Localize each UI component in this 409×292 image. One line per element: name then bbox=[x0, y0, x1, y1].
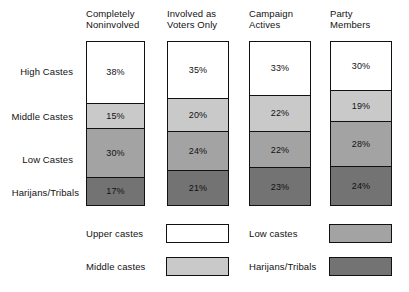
segment-value-label: 30% bbox=[106, 148, 125, 158]
legend-swatch-middle-castes bbox=[166, 257, 229, 276]
segment-value-label: 38% bbox=[106, 67, 125, 77]
bar-segment-low-castes: 28% bbox=[331, 121, 391, 166]
bar-segment-upper-castes: 30% bbox=[331, 42, 391, 90]
segment-value-label: 17% bbox=[106, 186, 125, 196]
segment-value-label: 19% bbox=[352, 101, 371, 111]
segment-value-label: 24% bbox=[189, 146, 208, 156]
legend-label-upper-castes: Upper castes bbox=[86, 229, 143, 240]
legend-swatch-harijans-tribals bbox=[329, 257, 392, 276]
segment-value-label: 23% bbox=[271, 182, 290, 192]
column-header-involved-as-voters-only: Involved as Voters Only bbox=[167, 9, 217, 30]
bar-segment-upper-castes: 33% bbox=[250, 42, 310, 95]
row-label-low-castes: Low Castes bbox=[22, 155, 73, 166]
bar-segment-harijans-tribals: 24% bbox=[331, 166, 391, 205]
segment-value-label: 22% bbox=[271, 145, 290, 155]
bar-segment-low-castes: 24% bbox=[168, 131, 228, 170]
segment-value-label: 30% bbox=[352, 61, 371, 71]
legend-label-low-castes: Low castes bbox=[249, 229, 298, 240]
segment-value-label: 35% bbox=[189, 65, 208, 75]
bar-segment-middle-castes: 19% bbox=[331, 90, 391, 121]
bar-segment-middle-castes: 15% bbox=[87, 103, 144, 128]
bar-campaign-actives: 33% 22% 22% 23% bbox=[249, 41, 311, 206]
bar-segment-harijans-tribals: 17% bbox=[87, 177, 144, 205]
bar-segment-low-castes: 30% bbox=[87, 128, 144, 177]
row-label-column: High Castes Middle Castes Low Castes Har… bbox=[0, 0, 82, 292]
bar-segment-middle-castes: 22% bbox=[250, 95, 310, 131]
segment-value-label: 20% bbox=[189, 110, 208, 120]
legend-swatch-low-castes bbox=[329, 224, 392, 243]
bar-segment-harijans-tribals: 21% bbox=[168, 170, 228, 205]
row-label-middle-castes: Middle Castes bbox=[12, 112, 74, 123]
bar-segment-upper-castes: 38% bbox=[87, 42, 144, 103]
bar-completely-noninvolved: 38% 15% 30% 17% bbox=[86, 41, 145, 206]
segment-value-label: 24% bbox=[352, 181, 371, 191]
bar-segment-middle-castes: 20% bbox=[168, 98, 228, 131]
segment-value-label: 21% bbox=[189, 183, 208, 193]
bar-party-members: 30% 19% 28% 24% bbox=[330, 41, 392, 206]
column-header-campaign-actives: Campaign Actives bbox=[249, 9, 293, 30]
stacked-bar-chart: Completely Noninvolved Involved as Voter… bbox=[0, 0, 409, 292]
legend-label-middle-castes: Middle castes bbox=[86, 262, 145, 273]
segment-value-label: 33% bbox=[271, 63, 290, 73]
bar-segment-upper-castes: 35% bbox=[168, 42, 228, 98]
segment-value-label: 22% bbox=[271, 108, 290, 118]
row-label-harijans-tribals: Harijans/Tribals bbox=[12, 188, 79, 199]
column-header-party-members: Party Members bbox=[330, 9, 370, 30]
bar-involved-as-voters-only: 35% 20% 24% 21% bbox=[167, 41, 229, 206]
row-label-high-castes: High Castes bbox=[20, 67, 73, 78]
column-header-completely-noninvolved: Completely Noninvolved bbox=[86, 9, 139, 30]
bar-segment-harijans-tribals: 23% bbox=[250, 167, 310, 205]
legend-swatch-upper-castes bbox=[166, 224, 229, 243]
segment-value-label: 28% bbox=[352, 139, 371, 149]
bar-segment-low-castes: 22% bbox=[250, 131, 310, 167]
legend-label-harijans-tribals: Harijans/Tribals bbox=[249, 262, 316, 273]
segment-value-label: 15% bbox=[106, 111, 125, 121]
